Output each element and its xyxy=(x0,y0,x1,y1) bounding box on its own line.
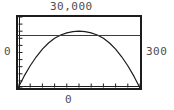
series-parabola xyxy=(18,31,140,88)
plot-canvas xyxy=(18,17,140,88)
x-axis-max-label: 300 xyxy=(146,46,167,57)
plot-frame xyxy=(16,15,142,90)
x-axis-min-label: 0 xyxy=(65,94,72,105)
y-axis-min-label: 0 xyxy=(4,46,11,57)
y-axis-max-label: 30,000 xyxy=(50,1,93,12)
axis-layer xyxy=(18,17,140,88)
series-layer xyxy=(18,31,140,88)
calculator-graph-screen: 30,000 0 300 0 xyxy=(0,0,174,110)
